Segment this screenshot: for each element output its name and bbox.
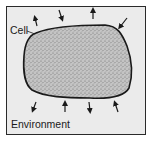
cell-membrane [24, 25, 132, 98]
arrow-inward-icon [120, 18, 127, 27]
cell-label-leader [27, 31, 35, 34]
arrow-inward-icon [115, 103, 118, 112]
environment-label: Environment [11, 119, 70, 130]
arrow-inward-icon [59, 10, 62, 19]
arrow-outward-icon [35, 18, 37, 26]
arrow-outward-icon [33, 102, 36, 110]
arrow-outward-icon [89, 102, 90, 111]
cell-label: Cell [10, 25, 28, 36]
